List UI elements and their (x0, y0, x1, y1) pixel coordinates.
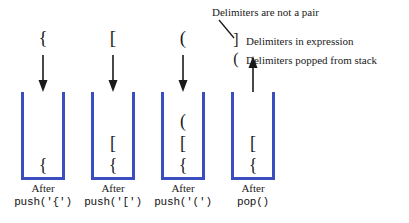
legend-entry-label: Delimiters in expression (246, 32, 354, 50)
stack-items-2: [ { (94, 132, 132, 176)
caption-after-label: After (6, 182, 80, 195)
stack-item: { (249, 154, 258, 176)
stack-item: [ (180, 132, 186, 154)
stack-item: { (179, 154, 188, 176)
stack-delimiter-diagram: { { After push('{') [ [ (0, 0, 409, 223)
top-delimiter-1: { (12, 28, 74, 47)
caption-4: After pop() (216, 182, 290, 209)
caption-after-label: After (76, 182, 150, 195)
push-arrow-down-1 (12, 55, 74, 93)
paren-open-icon: ( (230, 50, 242, 68)
push-arrow-down-3 (152, 55, 214, 93)
legend-entry-popped: ( Delimiters popped from stack (230, 50, 408, 69)
legend-entry-label: Delimiters popped from stack (246, 51, 377, 69)
top-delimiter-3: ( (152, 28, 214, 47)
stack-item: { (109, 154, 118, 176)
stack-container-2: [ { (91, 92, 135, 180)
caption-code-label: push('{') (6, 195, 80, 209)
stack-container-4: [ { (231, 92, 275, 180)
stack-container-3: ( [ { (161, 92, 205, 180)
stack-item: [ (250, 132, 256, 154)
caption-3: After push('(') (146, 182, 220, 209)
caption-2: After push('[') (76, 182, 150, 209)
stack-items-1: { (24, 154, 62, 176)
legend-entry-expression: ] Delimiters in expression (230, 31, 408, 50)
stack-items-4: [ { (234, 132, 272, 176)
caption-after-label: After (216, 182, 290, 195)
stack-item: ( (180, 110, 186, 132)
caption-code-label: pop() (216, 195, 290, 209)
top-delimiter-2: [ (82, 28, 144, 47)
caption-code-label: push('(') (146, 195, 220, 209)
caption-1: After push('{') (6, 182, 80, 209)
stack-items-3: ( [ { (164, 110, 202, 176)
caption-code-label: push('[') (76, 195, 150, 209)
stack-item: { (39, 154, 48, 176)
push-arrow-down-2 (82, 55, 144, 93)
stack-container-1: { (21, 92, 65, 180)
stack-item: [ (110, 132, 116, 154)
caption-after-label: After (146, 182, 220, 195)
annotation-pointer-line (212, 18, 252, 40)
